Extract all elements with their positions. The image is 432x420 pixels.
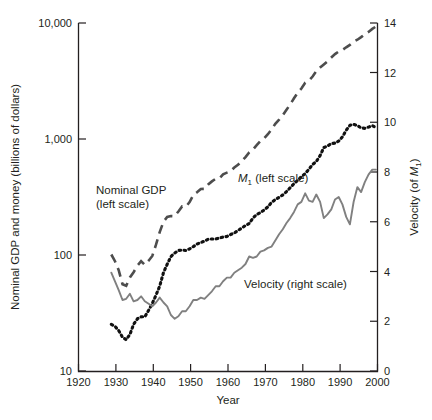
right-tick-label-8: 8 — [384, 166, 390, 178]
y-right-title-post: ) — [408, 158, 420, 162]
gdp-annotation-line1: Nominal GDP — [96, 184, 167, 196]
left-tick-label-1000: 1,000 — [44, 133, 72, 145]
x-tick-label-1950: 1950 — [178, 376, 202, 388]
x-tick-label-1990: 1990 — [328, 376, 352, 388]
right-axis-ticks — [370, 23, 378, 371]
m1-annotation-symbol: M — [238, 172, 248, 184]
m1-annotation-rest: (left scale) — [252, 172, 308, 184]
right-tick-label-6: 6 — [384, 216, 390, 228]
x-tick-label-2000: 2000 — [365, 376, 389, 388]
right-tick-label-10: 10 — [384, 116, 396, 128]
x-tick-label-1920: 1920 — [66, 376, 90, 388]
x-tick-label-1970: 1970 — [253, 376, 277, 388]
velocity-annotation: Velocity (right scale) — [244, 278, 347, 290]
right-tick-label-12: 12 — [384, 67, 396, 79]
left-tick-label-100: 100 — [54, 249, 72, 261]
velocity-money-chart: 10,000 1,000 100 10 0 2 4 6 8 10 12 14 — [0, 0, 432, 420]
right-tick-label-2: 2 — [384, 315, 390, 327]
series-nominal-gdp — [111, 27, 376, 286]
x-axis-tick-labels: 1920 1930 1940 1950 1960 1970 1980 1990 … — [66, 376, 389, 388]
chart-figure: 10,000 1,000 100 10 0 2 4 6 8 10 12 14 — [0, 0, 432, 420]
x-axis-title: Year — [216, 394, 239, 406]
y-axis-title-right: Velocity (of M1) — [408, 158, 423, 236]
m1-annotation: M1 (left scale) — [238, 172, 308, 187]
right-axis-tick-labels: 0 2 4 6 8 10 12 14 — [384, 17, 396, 377]
x-tick-label-1980: 1980 — [291, 376, 315, 388]
y-right-title-var: M — [408, 166, 420, 176]
left-tick-label-10000: 10,000 — [38, 17, 72, 29]
y-right-title-pre: Velocity (of — [408, 176, 420, 235]
x-tick-label-1960: 1960 — [216, 376, 240, 388]
y-axis-title-left: Nominal GDP and money (billions of dolla… — [9, 84, 21, 310]
series-m1 — [111, 124, 376, 339]
x-tick-label-1930: 1930 — [104, 376, 128, 388]
left-axis-tick-labels: 10,000 1,000 100 10 — [38, 17, 72, 377]
x-tick-label-1940: 1940 — [141, 376, 165, 388]
right-tick-label-4: 4 — [384, 266, 390, 278]
gdp-annotation-line2: (left scale) — [96, 198, 149, 210]
left-axis-ticks — [79, 23, 87, 371]
x-axis-ticks — [79, 364, 378, 371]
right-tick-label-14: 14 — [384, 17, 396, 29]
